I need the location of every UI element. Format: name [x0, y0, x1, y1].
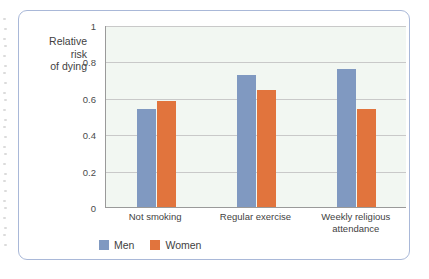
bar-women[interactable]: [157, 101, 176, 207]
legend-label: Women: [165, 239, 201, 251]
legend-item-men[interactable]: Men: [99, 239, 134, 251]
legend-swatch-icon: [99, 240, 109, 250]
y-axis-tick-label: 0.8: [83, 57, 96, 68]
legend-item-women[interactable]: Women: [150, 239, 201, 251]
x-axis-tick-label-line: Weekly religious: [306, 211, 406, 223]
bars-layer: [106, 26, 406, 207]
legend-swatch-icon: [150, 240, 160, 250]
chart-legend: MenWomen: [99, 239, 201, 251]
y-axis-tick-label: 0.4: [83, 130, 96, 141]
bar-women[interactable]: [257, 90, 276, 207]
y-axis-tick-label: 0: [91, 203, 96, 214]
plot-area: [105, 26, 406, 208]
x-axis-tick-label: Regular exercise: [205, 211, 305, 234]
x-axis-tick-label: Weekly religiousattendance: [306, 211, 406, 234]
scan-edge-artifacts: [3, 18, 9, 250]
y-axis-tick-label: 0.2: [83, 166, 96, 177]
figure-frame: Relative risk of dying 00.20.40.60.81 No…: [18, 10, 410, 260]
bar-men[interactable]: [137, 109, 156, 207]
y-axis-tick-label: 1: [91, 21, 96, 32]
y-axis-tick-labels: 00.20.40.60.81: [59, 26, 101, 208]
x-axis-tick-label-line: attendance: [306, 223, 406, 235]
bar-men[interactable]: [337, 69, 356, 207]
x-axis-tick-labels: Not smokingRegular exerciseWeekly religi…: [105, 211, 406, 234]
x-axis-tick-label-line: Not smoking: [105, 211, 205, 223]
bar-group: [206, 26, 306, 207]
x-axis-tick-label: Not smoking: [105, 211, 205, 234]
bar-group: [306, 26, 406, 207]
legend-label: Men: [114, 239, 134, 251]
bar-men[interactable]: [237, 75, 256, 207]
bar-group: [106, 26, 206, 207]
x-axis-tick-label-line: Regular exercise: [205, 211, 305, 223]
bar-women[interactable]: [357, 109, 376, 207]
y-axis-tick-label: 0.6: [83, 93, 96, 104]
